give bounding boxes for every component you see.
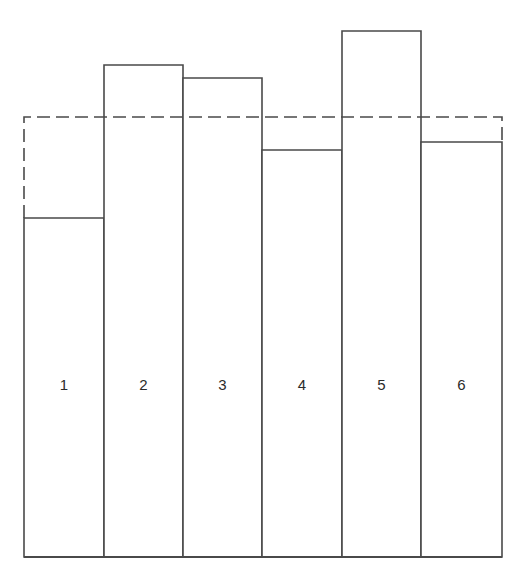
bar-6-outline[interactable] xyxy=(421,142,502,557)
bar-3-label: 3 xyxy=(218,376,226,393)
bar-3-outline[interactable] xyxy=(183,78,262,557)
bar-6-label: 6 xyxy=(457,376,465,393)
bar-5-outline[interactable] xyxy=(342,31,421,557)
bar-2[interactable]: 2 xyxy=(104,65,183,557)
bar-5[interactable]: 5 xyxy=(342,31,421,557)
bar-4-label: 4 xyxy=(298,376,306,393)
bar-6[interactable]: 6 xyxy=(421,142,502,557)
bar-chart-canvas: 1 2 3 4 5 xyxy=(0,0,524,579)
bar-4[interactable]: 4 xyxy=(262,150,342,557)
bar-2-label: 2 xyxy=(139,376,147,393)
bar-chart-figure: 1 2 3 4 5 xyxy=(0,0,524,579)
bar-1[interactable]: 1 xyxy=(24,218,104,557)
bar-3[interactable]: 3 xyxy=(183,78,262,557)
bar-2-outline[interactable] xyxy=(104,65,183,557)
bar-1-label: 1 xyxy=(60,376,68,393)
bar-5-label: 5 xyxy=(377,376,385,393)
bars-group: 1 2 3 4 5 xyxy=(24,31,502,557)
bar-4-outline[interactable] xyxy=(262,150,342,557)
